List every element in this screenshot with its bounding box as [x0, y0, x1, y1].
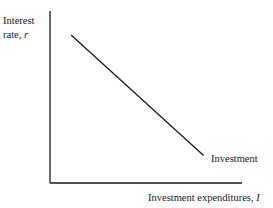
chart: Interest rate, r Investment Investment e… [0, 0, 273, 208]
y-axis-label-line1: Interest [3, 15, 35, 26]
y-axis-label-line2: rate, r [3, 29, 29, 40]
y-axis-label-text: rate, [3, 29, 24, 40]
series-line-investment [71, 35, 204, 155]
series-label-investment: Investment [211, 153, 258, 164]
series-layer [71, 35, 204, 155]
x-axis-label: Investment expenditures, I [148, 192, 260, 203]
x-axis-label-text: Investment expenditures, [148, 192, 256, 203]
y-axis-label-var: r [24, 29, 29, 40]
x-axis-label-var: I [255, 192, 260, 203]
